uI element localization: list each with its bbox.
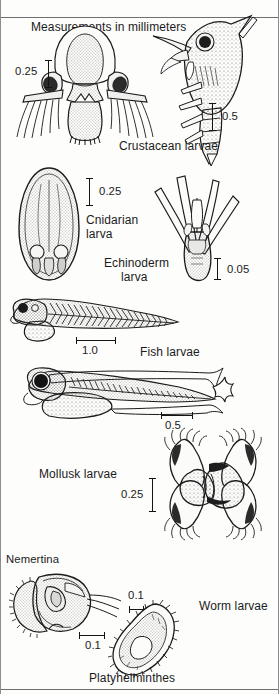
group-label-mollusk: Mollusk larvae xyxy=(39,468,117,481)
scale-bar-zoea xyxy=(209,103,216,131)
bottom-divider-rule xyxy=(1,689,278,690)
taxon-label-platyhelminthes: Platyhelminthes xyxy=(89,672,175,685)
group-label-cnidarian-line1: Cnidarian xyxy=(86,214,138,227)
scale-label-pilidium-body: 0.1 xyxy=(85,639,101,652)
larvae-illustration-plate: Measurements in millimeters xyxy=(0,0,279,694)
scale-label-veliger: 0.25 xyxy=(121,488,143,501)
group-label-worm: Worm larvae xyxy=(199,600,268,613)
mollusk-veliger-larva xyxy=(153,428,273,540)
scale-bar-fish-lower xyxy=(161,412,193,419)
scale-label-fish-upper: 1.0 xyxy=(82,344,98,357)
crustacean-nauplius-larva xyxy=(15,22,155,147)
platyhelminthes-muller-larva xyxy=(108,600,180,680)
scale-bar-pilidium-body xyxy=(79,632,105,639)
cnidarian-planula-larva xyxy=(15,166,83,284)
group-label-cnidarian-line2: larva xyxy=(86,228,113,241)
group-label-fish: Fish larvae xyxy=(140,346,200,359)
group-label-echinoderm-line2: larva xyxy=(121,271,148,284)
taxon-label-nemertina: Nemertina xyxy=(6,553,59,566)
group-label-crustacean: Crustacean larvae xyxy=(119,140,218,153)
scale-label-nauplius: 0.25 xyxy=(15,65,37,78)
fish-larva-postflexion xyxy=(19,365,235,421)
scale-bar-nauplius xyxy=(45,60,52,88)
group-label-echinoderm-line1: Echinoderm xyxy=(104,257,169,270)
scale-label-pluteus: 0.05 xyxy=(227,263,249,276)
scale-bar-planula xyxy=(86,178,93,206)
scale-bar-fish-upper xyxy=(76,337,116,344)
scale-bar-veliger xyxy=(149,478,156,512)
scale-label-planula: 0.25 xyxy=(99,185,121,198)
scale-bar-pluteus xyxy=(214,258,221,280)
scale-label-zoea: 0.5 xyxy=(222,110,238,123)
